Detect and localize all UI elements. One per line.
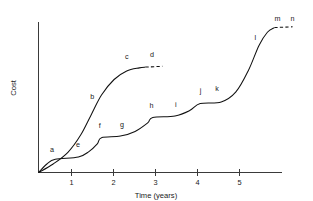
- x-tick-labels: 1 2 3 4 5: [69, 178, 241, 187]
- lower-staircase-curve-dashed-plateau: [275, 27, 293, 28]
- point-label-f: f: [99, 121, 101, 130]
- point-label-m: m: [274, 14, 280, 23]
- x-axis-title: Time (years): [135, 191, 178, 200]
- point-label-e: e: [76, 140, 80, 149]
- data-curves-group: [39, 27, 293, 173]
- point-label-h: h: [149, 101, 153, 110]
- point-label-g: g: [120, 120, 124, 129]
- point-label-l: l: [254, 33, 256, 42]
- point-label-a: a: [50, 145, 54, 154]
- point-label-c: c: [125, 52, 129, 61]
- point-label-b: b: [90, 92, 94, 101]
- axes-group: [38, 22, 282, 173]
- x-tick-label-4: 4: [195, 178, 199, 187]
- y-axis-title: Cost: [9, 79, 18, 96]
- x-tick-label-2: 2: [111, 178, 115, 187]
- x-tick-label-1: 1: [69, 178, 73, 187]
- point-label-j: j: [199, 86, 202, 95]
- point-label-k: k: [215, 84, 219, 93]
- x-tick-label-3: 3: [153, 178, 157, 187]
- upper-curve-solid: [39, 67, 146, 172]
- upper-curve-dashed-plateau: [146, 66, 163, 67]
- cost-vs-time-figure: 1 2 3 4 5 Time (years) Cost abcdefghijkl…: [0, 0, 313, 201]
- point-label-d: d: [150, 50, 154, 59]
- lower-staircase-curve-solid: [39, 28, 275, 173]
- x-tick-label-5: 5: [237, 178, 241, 187]
- chart-canvas: 1 2 3 4 5 Time (years) Cost abcdefghijkl…: [0, 0, 313, 201]
- point-label-n: n: [291, 14, 295, 23]
- point-label-i: i: [175, 100, 177, 109]
- curve-point-labels: abcdefghijklmn: [50, 14, 295, 153]
